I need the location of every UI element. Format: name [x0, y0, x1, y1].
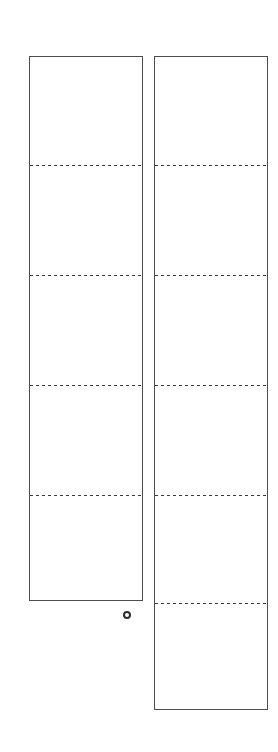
strip-panel-right: [154, 56, 268, 710]
fold-divider-line: [30, 385, 142, 386]
strip-panel-left: [29, 56, 143, 601]
fold-divider-line: [30, 275, 142, 276]
hole-punch-marker-icon: [123, 611, 131, 619]
fold-divider-line: [155, 495, 267, 496]
fold-divider-line: [30, 165, 142, 166]
fold-divider-line: [155, 165, 267, 166]
fold-divider-line: [155, 385, 267, 386]
fold-divider-line: [30, 495, 142, 496]
fold-divider-line: [155, 275, 267, 276]
template-sheet: [0, 0, 278, 752]
fold-divider-line: [155, 603, 267, 604]
